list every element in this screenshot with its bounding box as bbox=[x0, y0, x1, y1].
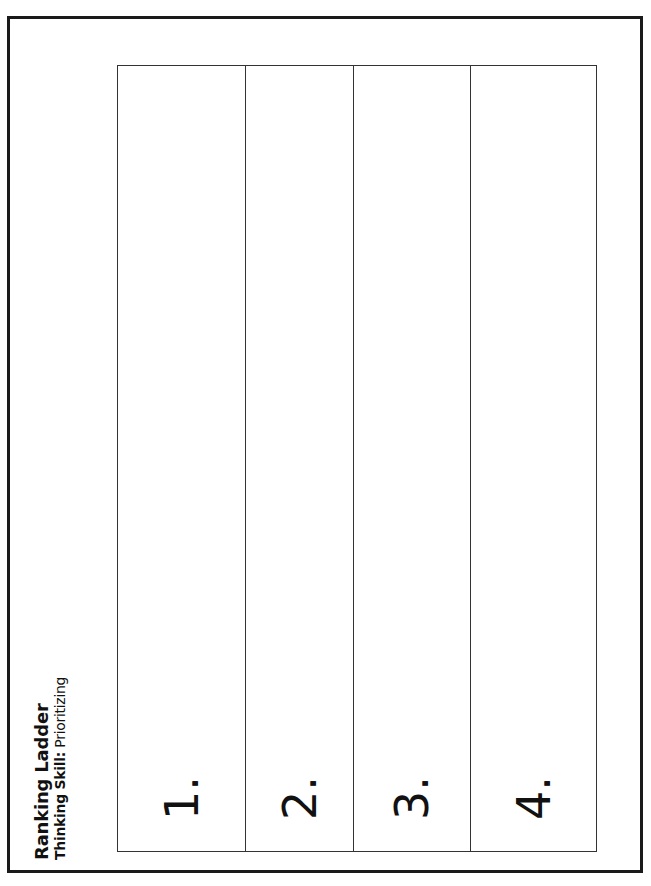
subtitle-label: Thinking Skill: bbox=[52, 752, 68, 860]
worksheet-title: Ranking Ladder bbox=[32, 677, 52, 860]
rung-number: 2. bbox=[277, 776, 323, 820]
title-block: Ranking Ladder Thinking Skill: Prioritiz… bbox=[32, 677, 68, 860]
rung-number: 4. bbox=[511, 776, 557, 820]
worksheet-subtitle: Thinking Skill: Prioritizing bbox=[52, 677, 68, 860]
rung-2[interactable]: 2. bbox=[246, 66, 354, 851]
rung-number: 1. bbox=[159, 776, 205, 820]
rung-3[interactable]: 3. bbox=[354, 66, 471, 851]
rung-1[interactable]: 1. bbox=[118, 66, 246, 851]
rung-number: 3. bbox=[389, 776, 435, 820]
ranking-ladder: 1. 2. 3. 4. bbox=[117, 65, 597, 852]
subtitle-value: Prioritizing bbox=[52, 677, 68, 748]
rung-4[interactable]: 4. bbox=[471, 66, 596, 851]
